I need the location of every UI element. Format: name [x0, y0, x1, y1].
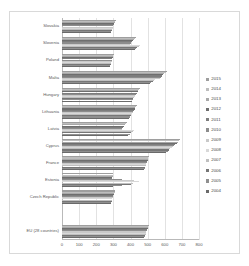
- category-label: Slovenia: [43, 41, 59, 45]
- bar: [62, 237, 144, 238]
- x-tick-label: 600: [161, 243, 168, 247]
- chart-frame: SlovakiaSloveniaPolandMaltaHungaryLithua…: [9, 11, 240, 254]
- category-label: Lithuania: [42, 110, 59, 114]
- bar-group: [62, 138, 199, 155]
- legend-label: 2008: [211, 148, 221, 152]
- x-tick-label: 0: [61, 243, 63, 247]
- legend-label: 2014: [211, 87, 221, 91]
- legend-swatch-icon: [206, 190, 209, 193]
- legend-swatch-icon: [206, 78, 209, 81]
- legend-label: 2006: [211, 169, 221, 173]
- category-label: Latvia: [48, 127, 59, 131]
- bar-group: [62, 52, 199, 69]
- legend-swatch-icon: [206, 98, 209, 101]
- x-tick-label: 200: [93, 243, 100, 247]
- legend-item: 2012: [206, 105, 249, 115]
- legend-label: 2011: [211, 118, 220, 122]
- legend-swatch-icon: [206, 169, 209, 172]
- bar-group: [62, 206, 199, 223]
- legend-item: 2005: [206, 176, 249, 186]
- bar-group: [62, 86, 199, 103]
- category-label: EU (28 countries): [26, 229, 59, 233]
- plot-area: SlovakiaSloveniaPolandMaltaHungaryLithua…: [62, 18, 199, 240]
- bar-chart: SlovakiaSloveniaPolandMaltaHungaryLithua…: [0, 0, 249, 266]
- legend-item: 2009: [206, 135, 249, 145]
- legend-item: 2007: [206, 156, 249, 166]
- category-label: France: [46, 161, 59, 165]
- gridline: [199, 18, 200, 240]
- bar: [62, 169, 144, 170]
- category-label: Estonia: [45, 178, 59, 182]
- legend-label: 2005: [211, 179, 221, 183]
- legend-label: 2004: [211, 189, 221, 193]
- legend-label: 2013: [211, 97, 221, 101]
- category-label: Malta: [49, 76, 59, 80]
- bar: [62, 152, 166, 153]
- legend-item: 2010: [206, 125, 249, 135]
- legend-item: 2008: [206, 145, 249, 155]
- legend-label: 2007: [211, 158, 221, 162]
- legend-item: 2006: [206, 166, 249, 176]
- category-label: Poland: [46, 58, 59, 62]
- x-tick-label: 300: [110, 243, 117, 247]
- x-axis-tick-labels: 0100200300400500600700800: [62, 243, 199, 251]
- bar: [62, 101, 132, 102]
- bar: [62, 203, 111, 204]
- legend-swatch-icon: [206, 159, 209, 162]
- legend-swatch-icon: [206, 118, 209, 121]
- legend-swatch-icon: [206, 179, 209, 182]
- x-tick-label: 700: [178, 243, 185, 247]
- legend-label: 2010: [211, 128, 221, 132]
- legend-swatch-icon: [206, 88, 209, 91]
- bar: [62, 83, 150, 84]
- legend-swatch-icon: [206, 108, 209, 111]
- legend-label: 2009: [211, 138, 221, 142]
- bar: [62, 186, 113, 187]
- bar: [62, 49, 135, 50]
- category-label: Slovakia: [43, 24, 59, 28]
- x-tick-label: 500: [144, 243, 151, 247]
- category-label: Hungary: [43, 93, 59, 97]
- x-tick-label: 100: [76, 243, 83, 247]
- bar: [62, 66, 110, 67]
- bar-group: [62, 223, 199, 240]
- x-tick-label: 400: [127, 243, 134, 247]
- bar-group: [62, 35, 199, 52]
- legend-label: 2012: [211, 107, 221, 111]
- bar-group: [62, 172, 199, 189]
- bar-group: [62, 189, 199, 206]
- x-tick-label: 800: [196, 243, 203, 247]
- legend-item: 2011: [206, 115, 249, 125]
- legend-swatch-icon: [206, 139, 209, 142]
- category-label: Cyprus: [46, 144, 59, 148]
- chart-legend: 2015201420132012201120102009200820072006…: [206, 74, 249, 196]
- bar-group: [62, 155, 199, 172]
- legend-swatch-icon: [206, 149, 209, 152]
- legend-item: 2015: [206, 74, 249, 84]
- bar: [62, 118, 129, 119]
- legend-item: 2014: [206, 84, 249, 94]
- category-label: Czech Republic: [30, 195, 59, 199]
- bar-group: [62, 120, 199, 137]
- legend-item: 2013: [206, 94, 249, 104]
- bar: [62, 135, 128, 136]
- bar-group: [62, 18, 199, 35]
- bar-group: [62, 69, 199, 86]
- legend-item: 2004: [206, 186, 249, 196]
- legend-swatch-icon: [206, 128, 209, 131]
- bar-group: [62, 103, 199, 120]
- legend-label: 2015: [211, 77, 221, 81]
- bar: [62, 32, 111, 33]
